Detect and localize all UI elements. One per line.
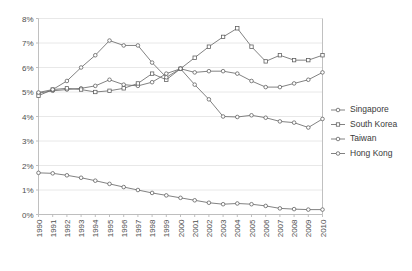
data-point-marker xyxy=(221,202,225,206)
data-point-marker xyxy=(321,54,324,57)
data-point-marker xyxy=(179,196,183,200)
x-tick-label: 1999 xyxy=(162,219,171,237)
x-tick-label: 1991 xyxy=(49,219,58,237)
x-tick-label: 1994 xyxy=(91,219,100,237)
data-point-marker xyxy=(221,115,225,119)
data-point-marker xyxy=(250,79,254,83)
x-tick-label: 2008 xyxy=(290,219,299,237)
y-tick-label: 4% xyxy=(22,113,34,122)
data-point-marker xyxy=(264,60,267,63)
data-point-marker xyxy=(278,85,282,89)
data-point-marker xyxy=(207,69,211,73)
gridlines xyxy=(39,19,323,215)
data-point-marker xyxy=(37,91,41,95)
data-point-marker xyxy=(179,67,183,71)
legend-item-hong-kong[interactable]: Hong Kong xyxy=(331,148,393,158)
data-point-marker xyxy=(165,76,169,80)
data-point-marker xyxy=(108,78,112,82)
data-point-marker xyxy=(136,44,140,48)
x-axis-tick-labels: 1990199119921993199419951996199719981999… xyxy=(35,219,328,237)
data-point-marker xyxy=(108,89,111,92)
data-point-marker xyxy=(236,202,240,206)
legend-label: Taiwan xyxy=(350,133,377,143)
x-tick-label: 2005 xyxy=(248,219,257,237)
x-tick-label: 2009 xyxy=(304,219,313,237)
x-tick-label: 2007 xyxy=(276,219,285,237)
legend: SingaporeSouth KoreaTaiwanHong Kong xyxy=(331,104,398,158)
data-point-marker xyxy=(79,88,82,91)
data-point-marker xyxy=(193,71,197,75)
data-point-marker xyxy=(79,176,83,180)
data-point-marker xyxy=(264,204,268,208)
y-tick-label: 6% xyxy=(22,64,34,73)
data-point-marker xyxy=(94,53,98,57)
data-point-marker xyxy=(250,113,254,117)
axes xyxy=(36,19,323,218)
x-tick-label: 2002 xyxy=(205,219,214,237)
legend-label: South Korea xyxy=(350,119,398,129)
y-tick-label: 7% xyxy=(22,39,34,48)
data-series-group xyxy=(37,27,325,212)
x-tick-label: 1996 xyxy=(120,219,129,237)
data-point-marker xyxy=(292,82,296,86)
data-point-marker xyxy=(193,198,197,202)
data-point-marker xyxy=(264,85,268,89)
legend-item-singapore[interactable]: Singapore xyxy=(331,104,389,114)
x-tick-label: 2006 xyxy=(262,219,271,237)
data-point-marker xyxy=(150,61,154,65)
data-point-marker xyxy=(51,88,55,92)
line-chart: 0%1%2%3%4%5%6%7%8% 199019911992199319941… xyxy=(0,0,412,271)
data-point-marker xyxy=(108,39,112,43)
x-tick-label: 2010 xyxy=(319,219,328,237)
legend-marker-icon xyxy=(336,108,340,112)
data-point-marker xyxy=(307,208,311,212)
data-point-marker xyxy=(94,179,98,183)
y-tick-label: 0% xyxy=(22,211,34,220)
data-point-marker xyxy=(207,98,211,102)
data-point-marker xyxy=(79,66,83,70)
x-tick-label: 2000 xyxy=(177,219,186,237)
data-point-marker xyxy=(250,202,254,206)
data-point-marker xyxy=(307,78,311,82)
data-point-marker xyxy=(122,83,126,87)
data-point-marker xyxy=(278,54,281,57)
data-point-marker xyxy=(37,171,41,175)
x-tick-label: 1995 xyxy=(106,219,115,237)
data-point-marker xyxy=(307,126,311,130)
data-point-marker xyxy=(193,83,197,87)
data-point-marker xyxy=(307,58,310,61)
x-tick-label: 2003 xyxy=(219,219,228,237)
data-point-marker xyxy=(122,44,126,48)
legend-item-south-korea[interactable]: South Korea xyxy=(331,119,398,129)
series-hong-kong xyxy=(37,39,325,130)
legend-label: Singapore xyxy=(350,104,389,114)
data-point-marker xyxy=(292,58,295,61)
data-point-marker xyxy=(94,84,98,88)
data-point-marker xyxy=(108,182,112,186)
data-point-marker xyxy=(150,191,154,195)
data-point-marker xyxy=(321,71,325,75)
legend-marker-icon xyxy=(336,137,340,141)
legend-item-taiwan[interactable]: Taiwan xyxy=(331,133,377,143)
y-tick-label: 5% xyxy=(22,88,34,97)
x-tick-label: 2004 xyxy=(233,219,242,237)
data-point-marker xyxy=(278,120,282,124)
data-point-marker xyxy=(221,69,225,73)
data-point-marker xyxy=(165,194,169,198)
x-tick-label: 1998 xyxy=(148,219,157,237)
data-point-marker xyxy=(122,87,125,90)
data-point-marker xyxy=(292,207,296,211)
data-point-marker xyxy=(193,56,196,59)
y-axis-tick-labels: 0%1%2%3%4%5%6%7%8% xyxy=(22,15,34,220)
data-point-marker xyxy=(65,174,69,178)
x-tick-label: 1997 xyxy=(134,219,143,237)
data-point-marker xyxy=(136,188,140,192)
y-tick-label: 1% xyxy=(22,186,34,195)
legend-marker-icon xyxy=(336,123,339,126)
data-point-marker xyxy=(65,87,68,90)
x-tick-label: 1992 xyxy=(63,219,72,237)
data-point-marker xyxy=(236,115,240,119)
data-point-marker xyxy=(94,90,97,93)
data-point-marker xyxy=(207,201,211,205)
data-point-marker xyxy=(250,45,253,48)
